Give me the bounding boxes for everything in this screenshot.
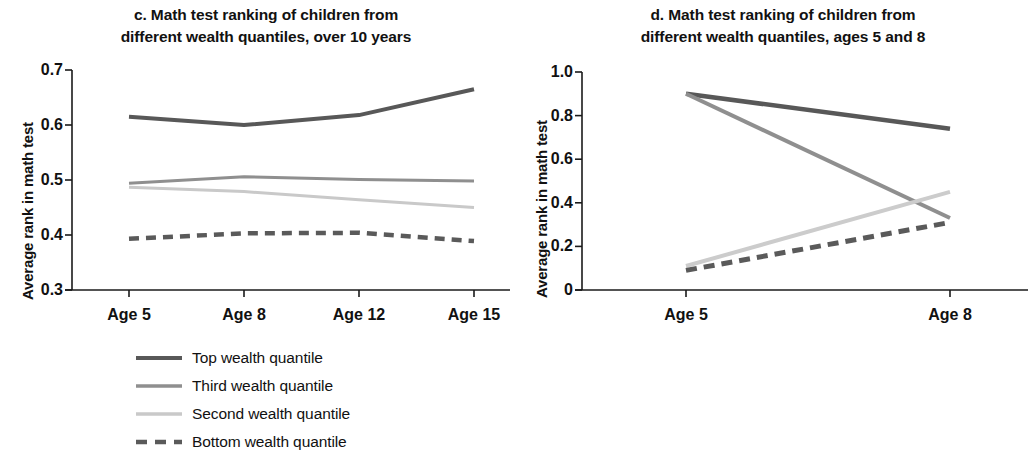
legend-line-swatch-icon — [136, 379, 182, 393]
legend-label: Bottom wealth quantile — [192, 433, 347, 451]
legend-line-swatch-icon — [136, 435, 182, 449]
panel-c-title-line2: different wealth quantiles, over 10 year… — [52, 26, 480, 48]
panel-c-legend: Top wealth quantileThird wealth quantile… — [136, 344, 350, 456]
series-line — [686, 192, 950, 266]
legend-item[interactable]: Third wealth quantile — [136, 372, 350, 400]
legend-item[interactable]: Second wealth quantile — [136, 400, 350, 428]
legend-item[interactable]: Top wealth quantile — [136, 344, 350, 372]
legend-label: Top wealth quantile — [192, 349, 323, 367]
panel-c-title-line1: c. Math test ranking of children from — [52, 4, 480, 26]
y-axis-tick-label: 0.2 — [551, 237, 573, 255]
x-axis-tick-label: Age 8 — [928, 306, 972, 324]
x-axis-tick-label: Age 5 — [107, 306, 151, 324]
x-axis-tick-label: Age 15 — [448, 306, 500, 324]
panel-d-plot-area: 00.20.40.60.81.0Age 5Age 8 — [582, 72, 1006, 290]
legend-line-swatch-icon — [136, 407, 182, 421]
y-axis-tick-label: 0.8 — [551, 107, 573, 125]
series-line — [129, 233, 474, 241]
panel-d: d. Math test ranking of children from di… — [514, 0, 1028, 467]
legend-line-swatch-icon — [136, 351, 182, 365]
panel-d-title-line2: different wealth quantiles, ages 5 and 8 — [564, 26, 1002, 48]
y-axis-tick-label: 0 — [564, 281, 573, 299]
panel-d-title-line1: d. Math test ranking of children from — [564, 4, 1002, 26]
panel-c-title: c. Math test ranking of children from di… — [0, 4, 514, 48]
panel-c: c. Math test ranking of children from di… — [0, 0, 514, 467]
panel-c-plot-area: 0.30.40.50.60.7Age 5Age 8Age 12Age 15 — [72, 70, 492, 290]
legend-label: Third wealth quantile — [192, 377, 333, 395]
y-axis-tick-label: 0.5 — [41, 171, 63, 189]
panel-c-y-axis-label: Average rank in math test — [19, 122, 36, 300]
panel-d-title: d. Math test ranking of children from di… — [514, 4, 1028, 48]
y-axis-tick-label: 0.6 — [41, 116, 63, 134]
series-line — [129, 187, 474, 207]
series-line — [129, 89, 474, 125]
panel-c-chart-svg — [72, 70, 510, 300]
panel-d-y-axis-label: Average rank in math test — [533, 120, 550, 298]
legend-item[interactable]: Bottom wealth quantile — [136, 428, 350, 456]
x-axis-tick-label: Age 5 — [664, 306, 708, 324]
panel-d-chart-svg — [582, 72, 1028, 300]
x-axis-tick-label: Age 12 — [333, 306, 385, 324]
legend-label: Second wealth quantile — [192, 405, 350, 423]
y-axis-tick-label: 0.7 — [41, 61, 63, 79]
y-axis-tick-label: 1.0 — [551, 63, 573, 81]
figure-root: c. Math test ranking of children from di… — [0, 0, 1028, 467]
y-axis-tick-label: 0.4 — [41, 226, 63, 244]
y-axis-tick-label: 0.6 — [551, 150, 573, 168]
y-axis-tick-label: 0.3 — [41, 281, 63, 299]
series-line — [129, 177, 474, 184]
x-axis-tick-label: Age 8 — [222, 306, 266, 324]
y-axis-tick-label: 0.4 — [551, 194, 573, 212]
